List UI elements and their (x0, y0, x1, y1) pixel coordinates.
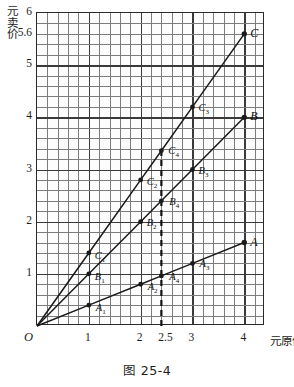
point-label-C3: C3 (198, 103, 209, 116)
data-point-marker (190, 167, 195, 172)
data-point-marker (138, 219, 143, 224)
point-label-B3: B3 (198, 166, 208, 179)
data-point-marker (138, 282, 143, 287)
data-point-marker (190, 105, 195, 110)
x-axis-tick-label: 1 (73, 331, 103, 343)
point-label-C: C (250, 27, 258, 39)
y-axis-tick-label: 1 (6, 266, 32, 278)
data-point-marker (159, 198, 164, 203)
data-point-marker (190, 261, 195, 266)
data-point-marker (242, 115, 247, 120)
x-axis-tick-label: 4 (228, 331, 258, 343)
data-point-marker (242, 240, 247, 245)
point-label-B: B (250, 110, 257, 122)
data-point-marker (159, 274, 164, 279)
point-label-A3: A3 (199, 259, 209, 272)
data-point-marker (159, 148, 164, 153)
point-label-A: A (250, 236, 257, 248)
point-label-C4: C4 (168, 146, 179, 159)
y-axis-tick-label: 2 (6, 214, 32, 226)
point-label-A4: A4 (169, 272, 179, 285)
y-axis-tick-label: 6 (6, 5, 32, 17)
data-point-marker (86, 251, 91, 256)
data-point-marker (86, 303, 91, 308)
point-label-B1: B1 (95, 272, 105, 285)
origin-label: O (24, 330, 33, 345)
figure-caption: 图 25-4 (0, 360, 294, 379)
data-point-marker (138, 178, 143, 183)
x-axis-tick-label: 3 (176, 331, 206, 343)
figure-container: 元 卖 价 123455.66122.534 A1A2A4A3AB1B2B4B3… (0, 0, 294, 387)
y-axis-tick-label: 5 (6, 57, 32, 69)
y-axis-tick-label: 3 (6, 162, 32, 174)
y-axis-tick-label: 4 (6, 109, 32, 121)
point-label-C2: C2 (147, 177, 158, 190)
data-point-marker (242, 31, 247, 36)
plot-area (36, 12, 264, 325)
y-axis-tick-label: 5.6 (6, 26, 32, 38)
point-label-B2: B2 (147, 218, 157, 231)
data-layer (37, 13, 265, 326)
point-label-C1: C1 (95, 251, 106, 264)
point-label-B4: B4 (169, 197, 179, 210)
data-point-marker (86, 271, 91, 276)
point-label-A1: A1 (96, 303, 106, 316)
point-label-A2: A2 (148, 282, 158, 295)
x-axis-unit-label: 元原价 (270, 332, 294, 348)
